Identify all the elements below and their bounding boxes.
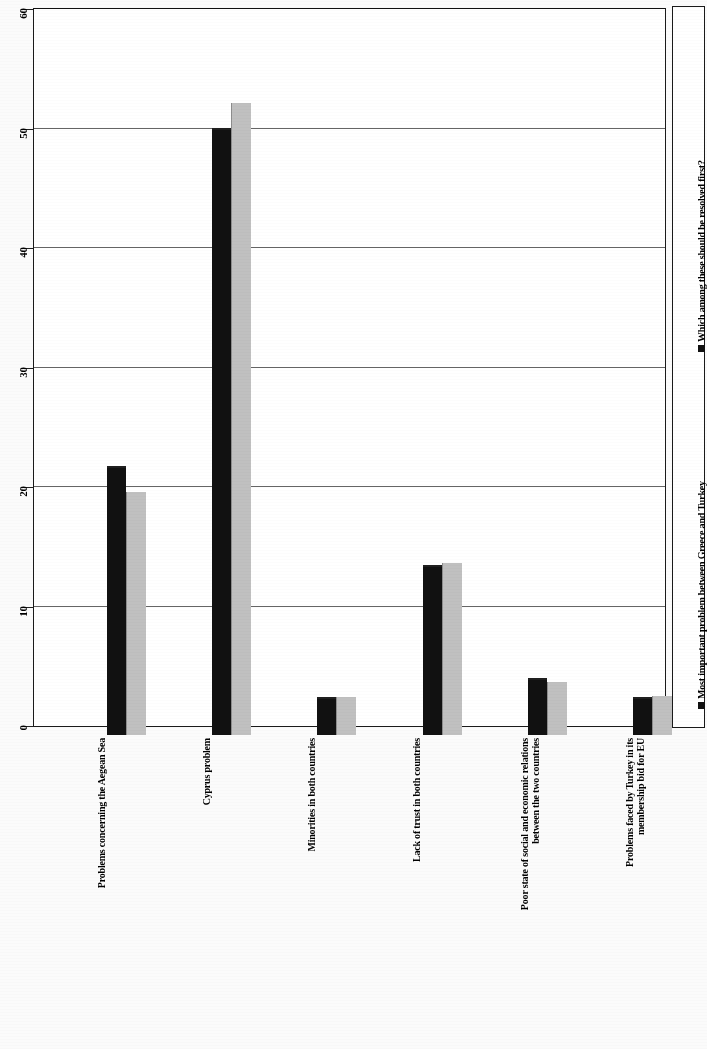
gridline-60 (34, 8, 665, 9)
x-axis-category-labels: Problems concerning the Aegean SeaCyprus… (34, 736, 665, 1036)
bar-group (107, 18, 146, 735)
legend-label: Which among these should be resolved fir… (696, 160, 707, 342)
y-axis-label-60: 60 (18, 9, 29, 19)
chart-page: 0102030405060 Problems concerning the Ae… (0, 0, 707, 1049)
bar-series2 (652, 696, 672, 735)
bar-series2 (442, 563, 462, 735)
bar-series1 (107, 466, 126, 735)
bar-series2 (547, 682, 567, 735)
y-axis: 0102030405060 (0, 0, 33, 735)
legend-swatch-icon (698, 345, 705, 352)
y-axis-label-50: 50 (18, 128, 29, 138)
bar-series2 (336, 697, 356, 735)
bar-series1 (317, 697, 336, 735)
bar-series1 (212, 128, 231, 735)
x-axis-category-label: Problems concerning the Aegean Sea (96, 738, 107, 998)
x-axis-category-label: Cyprus problem (201, 738, 212, 998)
bar-group (317, 18, 356, 735)
y-axis-label-40: 40 (18, 248, 29, 258)
legend-label: Most important problem between Greece an… (696, 481, 707, 699)
bar-group (212, 18, 251, 735)
bar-series2 (126, 492, 146, 735)
bar-group (423, 18, 462, 735)
y-axis-label-10: 10 (18, 606, 29, 616)
y-axis-label-20: 20 (18, 487, 29, 497)
bar-group (633, 18, 672, 735)
bar-series2 (231, 103, 251, 735)
legend-swatch-icon (698, 702, 705, 709)
y-axis-label-30: 30 (18, 367, 29, 377)
x-axis-category-label: Lack of trust in both countries (411, 738, 422, 998)
x-axis-category-label: Poor state of social and economic relati… (519, 738, 541, 998)
y-axis-label-0: 0 (18, 726, 29, 731)
x-axis-category-label: Minorities in both countries (306, 738, 317, 998)
bar-series-container (68, 18, 699, 735)
plot-area (33, 8, 666, 727)
bar-series1 (528, 678, 547, 735)
bar-series1 (633, 697, 652, 735)
x-axis-category-label: Problems faced by Turkey in its membersh… (624, 738, 646, 998)
bar-series1 (423, 565, 442, 735)
chart-legend: Most important problem between Greece an… (672, 6, 705, 728)
bar-group (528, 18, 567, 735)
